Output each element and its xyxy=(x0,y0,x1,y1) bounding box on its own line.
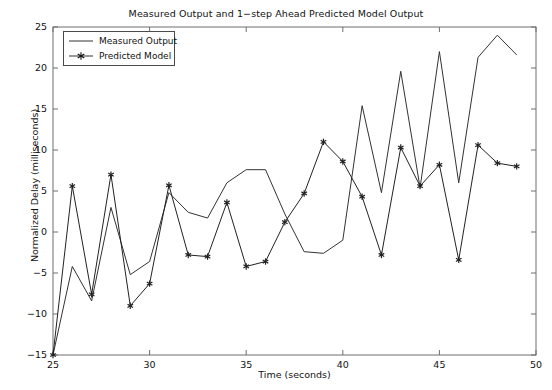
y-tick-label: 0 xyxy=(5,226,47,237)
y-tick-label: 20 xyxy=(5,62,47,73)
legend-star-sample-icon xyxy=(68,50,94,62)
x-tick-label: 45 xyxy=(419,359,459,370)
data-point-marker xyxy=(398,144,404,150)
x-axis-label: Time (seconds) xyxy=(53,369,536,380)
legend-label-predicted-model: Predicted Model xyxy=(99,50,171,62)
x-tick-label: 35 xyxy=(226,359,266,370)
x-tick-label: 40 xyxy=(323,359,363,370)
x-tick-label: 50 xyxy=(516,359,552,370)
y-tick-label: 5 xyxy=(5,185,47,196)
legend-item-predicted-model: Predicted Model xyxy=(68,49,171,63)
chart-figure: Measured Output and 1−step Ahead Predict… xyxy=(0,0,552,390)
data-point-marker xyxy=(166,182,172,188)
x-tick-label: 25 xyxy=(33,359,73,370)
x-tick-label: 30 xyxy=(130,359,170,370)
data-point-marker xyxy=(224,199,230,205)
y-tick-label: −10 xyxy=(5,308,47,319)
legend-line-sample-icon xyxy=(68,35,94,47)
series-line xyxy=(53,35,517,355)
y-tick-label: 15 xyxy=(5,103,47,114)
data-point-marker xyxy=(359,194,365,200)
data-point-marker xyxy=(379,252,385,258)
data-point-marker xyxy=(108,171,114,177)
legend-label-measured-output: Measured Output xyxy=(99,35,177,47)
data-point-marker xyxy=(456,257,462,263)
data-point-marker xyxy=(70,183,76,189)
legend-item-measured-output: Measured Output xyxy=(68,34,177,48)
y-tick-label: 10 xyxy=(5,144,47,155)
y-tick-label: 25 xyxy=(5,21,47,32)
y-tick-label: −5 xyxy=(5,267,47,278)
chart-legend: Measured Output Predicted Model xyxy=(63,31,175,66)
